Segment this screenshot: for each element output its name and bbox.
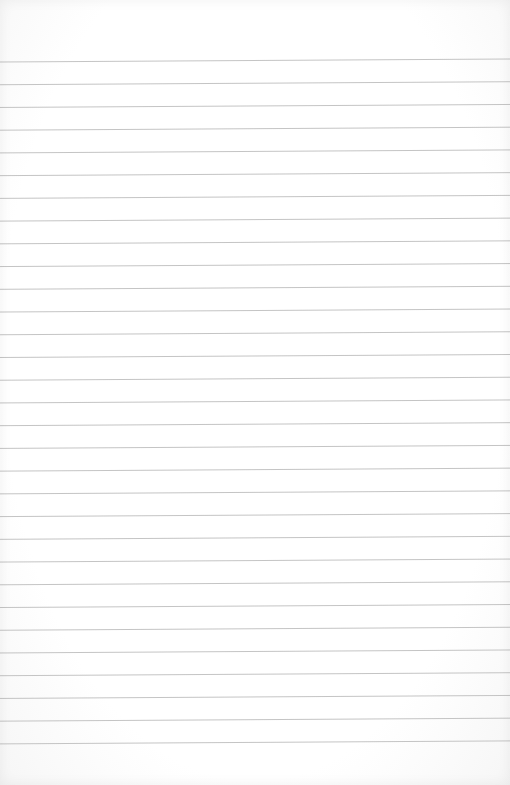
ruled-line [0, 127, 510, 130]
ruled-line [0, 218, 510, 221]
ruled-line [0, 605, 510, 608]
ruled-line [0, 173, 510, 176]
ruled-line [0, 264, 510, 267]
ruled-line [0, 536, 510, 539]
ruled-line [0, 650, 510, 653]
ruled-line [0, 400, 510, 403]
ruled-line [0, 695, 510, 698]
ruled-line [0, 423, 510, 426]
ruled-lines [0, 0, 510, 785]
ruled-line [0, 309, 510, 312]
ruled-line [0, 741, 510, 744]
ruled-paper-sheet [0, 0, 510, 785]
ruled-line [0, 582, 510, 585]
ruled-line [0, 514, 510, 517]
ruled-line [0, 104, 510, 107]
ruled-line [0, 377, 510, 380]
ruled-line [0, 673, 510, 676]
ruled-line [0, 82, 510, 85]
ruled-line [0, 195, 510, 198]
ruled-line [0, 286, 510, 289]
ruled-line [0, 59, 510, 62]
ruled-line [0, 354, 510, 357]
ruled-line [0, 241, 510, 244]
ruled-line [0, 468, 510, 471]
ruled-line [0, 445, 510, 448]
ruled-line [0, 150, 510, 153]
ruled-line [0, 627, 510, 630]
ruled-line [0, 491, 510, 494]
ruled-line [0, 559, 510, 562]
ruled-line [0, 718, 510, 721]
ruled-line [0, 332, 510, 335]
